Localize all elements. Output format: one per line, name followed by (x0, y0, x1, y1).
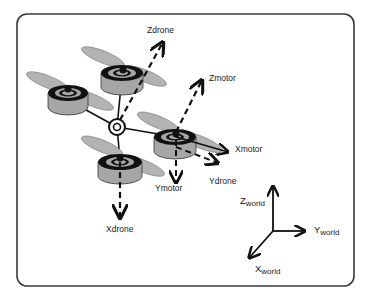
label-zworld: Zworld (240, 196, 265, 208)
label-zdrone: Zdrone (147, 26, 174, 35)
label-yworld-sub: world (320, 228, 339, 237)
label-ymotor: Ymotor (155, 184, 182, 193)
drone-frames-diagram (0, 0, 371, 302)
label-ydrone: Ydrone (209, 177, 236, 186)
label-xworld-sub: world (261, 267, 280, 276)
label-xworld: Xworld (255, 264, 280, 276)
label-xmotor: Xmotor (235, 145, 262, 154)
label-zmotor: Zmotor (209, 74, 236, 83)
label-zworld-sub: world (246, 199, 265, 208)
drone-hub (109, 119, 125, 135)
label-yworld: Yworld (314, 225, 339, 237)
label-xdrone: Xdrone (106, 225, 133, 234)
